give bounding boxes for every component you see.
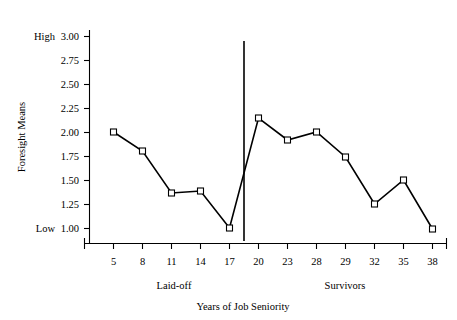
data-point-5	[111, 129, 117, 135]
chart-canvas: 3.00 2.75 2.50 2.25 2.00 1.75 1.50 1.25 …	[0, 0, 457, 320]
y-tick-label-2-75: 2.75	[61, 55, 79, 66]
y-tick-label-3-00: 3.00	[61, 31, 79, 42]
series-markers	[111, 115, 436, 232]
data-point-11	[169, 190, 175, 196]
data-point-29	[343, 154, 349, 160]
data-point-8	[140, 148, 146, 154]
series-line-foresight-means	[114, 118, 433, 229]
data-point-38	[430, 226, 436, 232]
data-point-23	[285, 137, 291, 143]
x-axis-tick-labels: 5 8 11 14 17 20 23 28 29 32 35 38	[111, 256, 438, 267]
x-tick-label-29: 29	[340, 256, 351, 267]
data-point-35	[401, 177, 407, 183]
x-tick-label-23: 23	[282, 256, 293, 267]
x-tick-label-8: 8	[140, 256, 145, 267]
data-point-14	[198, 188, 204, 194]
y-tick-label-2-25: 2.25	[61, 103, 79, 114]
data-point-32	[372, 201, 378, 207]
y-axis-low-label: Low	[36, 223, 56, 234]
x-tick-label-11: 11	[166, 256, 176, 267]
y-axis-ticks	[84, 37, 90, 229]
group-label-laid-off: Laid-off	[157, 280, 192, 291]
x-tick-label-20: 20	[253, 256, 264, 267]
foresight-means-chart: 3.00 2.75 2.50 2.25 2.00 1.75 1.50 1.25 …	[0, 0, 457, 320]
y-tick-label-1-75: 1.75	[61, 151, 79, 162]
x-tick-label-5: 5	[111, 256, 116, 267]
y-axis-tick-labels: 3.00 2.75 2.50 2.25 2.00 1.75 1.50 1.25 …	[61, 31, 79, 234]
y-axis-high-label: High	[34, 31, 56, 42]
x-tick-label-32: 32	[369, 256, 380, 267]
data-point-28	[314, 129, 320, 135]
group-label-survivors: Survivors	[325, 280, 366, 291]
x-tick-label-35: 35	[398, 256, 409, 267]
y-tick-label-1-25: 1.25	[61, 199, 79, 210]
x-tick-label-17: 17	[224, 256, 235, 267]
y-tick-label-2-50: 2.50	[61, 79, 79, 90]
y-tick-label-1-50: 1.50	[61, 175, 79, 186]
x-tick-label-38: 38	[427, 256, 438, 267]
data-point-20	[256, 115, 262, 121]
y-tick-label-2-00: 2.00	[61, 127, 79, 138]
x-axis-title: Years of Job Seniority	[196, 301, 290, 312]
data-point-17	[227, 225, 233, 231]
x-tick-label-28: 28	[311, 256, 322, 267]
y-tick-label-1-00: 1.00	[61, 223, 79, 234]
x-tick-label-14: 14	[195, 256, 206, 267]
y-axis-title: Foresight Means	[16, 102, 27, 172]
